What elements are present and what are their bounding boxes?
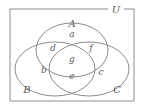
venn-diagram-canvas: U A B C a b c d e f g [0,0,144,112]
universe-label: U [112,4,121,15]
set-label-a: A [67,18,75,29]
region-label-f: f [88,43,94,53]
region-label-c: c [98,67,103,77]
region-label-g: g [69,54,75,64]
region-label-e: e [69,71,74,81]
region-label-a: a [69,29,74,39]
region-label-d: d [50,43,56,53]
region-label-b: b [41,65,47,75]
venn-diagram-figure: U A B C a b c d e f g [0,0,144,112]
set-label-b: B [22,84,30,95]
set-label-c: C [113,84,121,95]
